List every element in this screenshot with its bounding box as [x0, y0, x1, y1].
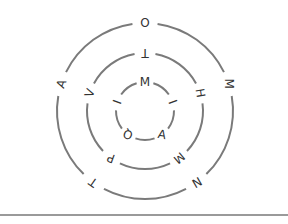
ring-middle[interactable]: THMPV [82, 46, 208, 169]
ring-arc [155, 54, 196, 83]
ring-arc [120, 163, 170, 169]
ring-letter: M [171, 149, 188, 166]
ring-letter: V [82, 86, 98, 99]
ring-arc [104, 189, 186, 199]
ring-arc [158, 24, 224, 72]
ring-letter: M [140, 75, 150, 89]
ring-arc [206, 96, 233, 174]
ring-letter: N [189, 174, 204, 191]
ring-letter: I [110, 98, 124, 106]
ring-letter: T [141, 46, 150, 60]
ring-arc [153, 83, 168, 94]
ring-letter: Q [121, 126, 135, 142]
ring-letter: T [86, 174, 101, 191]
letter-rings-puzzle: OMNTA THMPV MIAQI [0, 0, 288, 224]
ring-arc [94, 54, 135, 83]
ring-arc [87, 103, 103, 151]
ring-letter: P [105, 150, 117, 166]
ring-arc [121, 83, 136, 94]
ring-letter: I [165, 98, 179, 106]
ring-letter: A [53, 77, 69, 90]
ring-inner[interactable]: MIAQI [110, 75, 180, 143]
ring-letter: A [157, 127, 168, 142]
ring-arc [116, 110, 122, 128]
ring-letter: M [222, 79, 236, 89]
bottom-divider [0, 214, 288, 216]
ring-outer[interactable]: OMNTA [53, 16, 235, 199]
ring-letter: O [140, 16, 149, 30]
ring-arc [57, 96, 84, 174]
ring-arc [187, 103, 203, 151]
ring-arc [66, 24, 132, 72]
ring-letter: H [192, 87, 207, 98]
ring-arc [168, 110, 174, 128]
ring-arc [135, 138, 154, 140]
